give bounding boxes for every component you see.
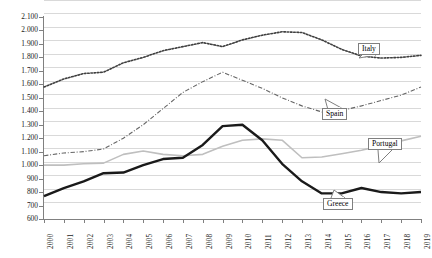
callout-pointer-greece: [331, 190, 345, 198]
callout-pointer-spain: [325, 99, 342, 108]
callout-greece[interactable]: Greece: [323, 198, 353, 210]
callout-italy[interactable]: Italy: [358, 43, 380, 55]
callout-portugal[interactable]: Portugal: [368, 138, 402, 150]
callout-spain[interactable]: Spain: [322, 108, 347, 120]
callout-pointer-portugal: [378, 150, 392, 163]
